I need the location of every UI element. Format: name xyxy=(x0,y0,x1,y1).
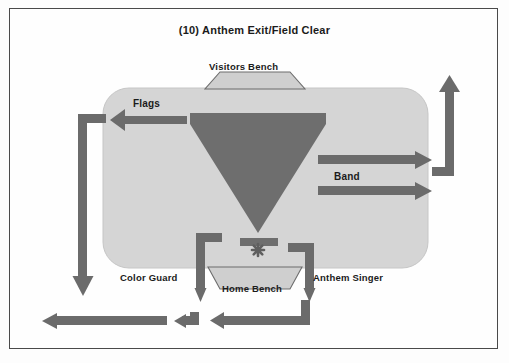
band-label: Band xyxy=(334,171,360,182)
visitors-bench-shape xyxy=(205,72,305,89)
flags-label: Flags xyxy=(133,98,160,109)
home-bench-label: Home Bench xyxy=(222,283,282,294)
bottom-elbow-arrow xyxy=(174,312,199,328)
diagram-page: (10) Anthem Exit/Field Clear xyxy=(0,0,509,363)
field-diagram-canvas xyxy=(0,0,509,363)
star-burst-marker xyxy=(252,244,264,256)
bottom-right-exit-arrow xyxy=(210,300,310,329)
anthem-singer-label: Anthem Singer xyxy=(313,272,383,283)
color-guard-label: Color Guard xyxy=(120,272,178,283)
bottom-left-exit-arrow xyxy=(42,313,167,329)
visitors-bench-label: Visitors Bench xyxy=(209,61,278,72)
band-exit-vertical-arrow xyxy=(432,75,460,176)
formation-front-rank-bar xyxy=(190,113,326,124)
